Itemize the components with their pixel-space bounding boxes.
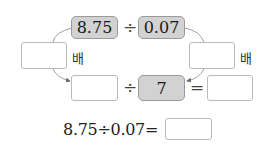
right-multiplier-unit: 배 <box>240 48 252 67</box>
equals-sign: = <box>190 79 204 96</box>
dividend-value: 8.75 <box>77 18 113 37</box>
left-multiplier-unit: 배 <box>72 48 84 67</box>
new-divisor-value: 7 <box>156 79 166 98</box>
divisor-value: 0.07 <box>144 18 180 37</box>
new-dividend-input[interactable] <box>71 75 118 101</box>
equation-text: 8.75÷0.07= <box>63 120 158 139</box>
new-divisor-box: 7 <box>138 75 185 101</box>
equation-answer-input[interactable] <box>165 118 212 140</box>
divide-sign-bottom: ÷ <box>123 79 137 96</box>
right-multiplier-input[interactable] <box>189 42 235 69</box>
divide-sign-top: ÷ <box>123 19 137 36</box>
dividend-box: 8.75 <box>71 16 118 39</box>
quotient-input[interactable] <box>207 75 253 101</box>
divisor-box: 0.07 <box>138 16 185 39</box>
left-multiplier-input[interactable] <box>21 42 67 69</box>
